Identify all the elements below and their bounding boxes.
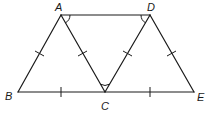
- geometry-diagram: A D B C E: [0, 0, 216, 118]
- tick-AB: [35, 51, 44, 56]
- angle-mark-D: [141, 15, 146, 23]
- tick-DC: [123, 51, 132, 56]
- label-A: A: [54, 1, 62, 13]
- label-E: E: [197, 91, 205, 103]
- angle-mark-C: [101, 84, 110, 85]
- label-B: B: [5, 90, 12, 102]
- label-D: D: [147, 1, 155, 13]
- angle-mark-A: [66, 15, 71, 23]
- label-C: C: [101, 100, 109, 112]
